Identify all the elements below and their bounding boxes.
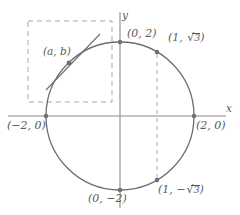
label-top-vertex: (0, 2) xyxy=(127,28,157,39)
label-bottom-vertex: (0, −2) xyxy=(88,193,127,204)
radical-operand-lower: 3 xyxy=(194,184,200,195)
point-upper-right xyxy=(155,50,159,54)
label-upper-right-point: (1, √3) xyxy=(168,32,205,43)
label-lower-right-point: (1, −√3) xyxy=(158,184,204,195)
point-right-vertex xyxy=(192,114,196,118)
label-left-vertex: (−2, 0) xyxy=(7,120,46,131)
radical-bar-upper xyxy=(192,33,201,34)
label-right-vertex: (2, 0) xyxy=(196,120,226,131)
x-axis-label: x xyxy=(226,103,232,114)
label-lower-right-suffix: ) xyxy=(200,183,204,196)
point-left-vertex xyxy=(44,114,48,118)
label-tangent-point: (a, b) xyxy=(43,46,71,57)
radical-bar-lower xyxy=(191,185,200,186)
tangent-line xyxy=(46,34,100,90)
point-lower-right xyxy=(155,178,159,182)
radical-operand-upper: 3 xyxy=(194,32,200,43)
point-top-vertex xyxy=(118,40,122,44)
y-axis-label: y xyxy=(122,10,128,21)
label-upper-right-prefix: (1, xyxy=(168,31,186,44)
label-lower-right-prefix: (1, − xyxy=(158,183,186,196)
point-tangent xyxy=(67,61,72,66)
radical-lower: √3 xyxy=(186,184,200,195)
label-upper-right-suffix: ) xyxy=(200,31,204,44)
circle-diagram: y x (0, 2) (0, −2) (−2, 0) (2, 0) (a, b)… xyxy=(0,0,240,215)
radical-upper: √3 xyxy=(186,32,200,43)
